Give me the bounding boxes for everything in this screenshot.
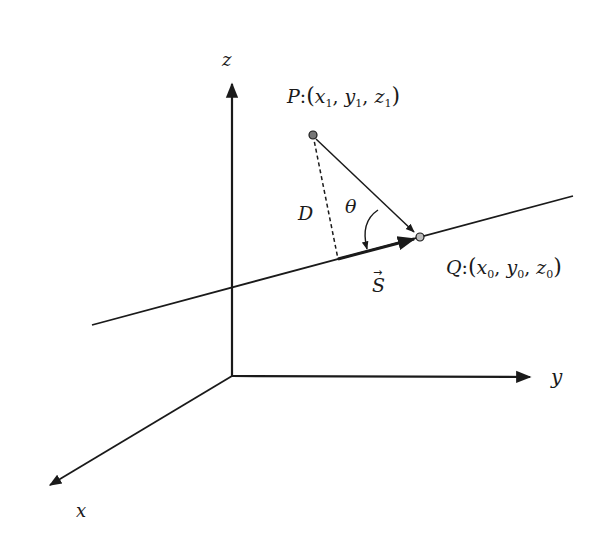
point-q-dot — [416, 233, 424, 241]
point-q-label: Q:(x0, y0, z0) — [446, 254, 562, 281]
x-axis — [50, 376, 232, 485]
angle-theta-label: θ — [345, 195, 357, 217]
z-axis-label: z — [221, 49, 232, 70]
point-p-label: P:(x1, y1, z1) — [286, 83, 400, 110]
vector-bar-icon: → — [373, 266, 382, 279]
vector-pq — [316, 139, 414, 232]
y-axis-label: y — [550, 365, 563, 389]
angle-theta-arc — [365, 210, 378, 249]
y-axis — [232, 376, 530, 377]
distance-d-dashed-line — [313, 135, 338, 259]
axes — [50, 84, 530, 485]
direction-vector-s — [338, 239, 414, 259]
point-p-dot — [309, 131, 317, 139]
distance-d-label: D — [297, 202, 313, 224]
diagram-canvas: z y x P:(x1, y1, z1) Q:(x0, y0, z0) D θ … — [0, 0, 614, 557]
x-axis-label: x — [76, 500, 86, 521]
